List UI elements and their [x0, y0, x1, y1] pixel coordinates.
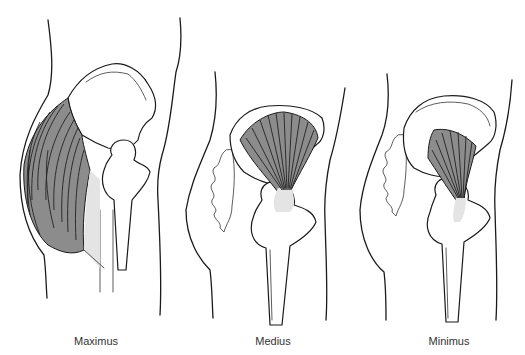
minimus-body-outline-left — [360, 74, 388, 320]
panel-medius-drawing — [186, 72, 345, 325]
panel-minimus-drawing — [360, 74, 512, 322]
minimus-sacrum — [383, 135, 406, 216]
medius-sacrum — [211, 150, 234, 232]
label-minimus: Minimus — [429, 335, 470, 347]
panel-maximus-drawing — [20, 18, 181, 315]
label-maximus: Maximus — [74, 335, 118, 347]
minimus-body-outline-right — [495, 80, 512, 320]
medius-tendon — [274, 188, 294, 212]
maximus-femur — [102, 140, 150, 270]
maximus-body-outline-right — [158, 18, 181, 315]
gluteal-muscles-illustration — [0, 0, 525, 355]
medius-body-outline-left — [186, 72, 216, 318]
label-medius: Medius — [255, 335, 290, 347]
medius-body-outline-right — [325, 88, 345, 320]
